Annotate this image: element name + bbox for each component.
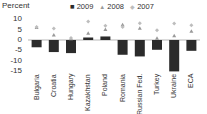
bar-2009 [49,40,59,52]
marker-2007 [155,28,159,32]
bar-2009 [169,40,179,71]
marker-2007 [86,19,90,23]
bar-2009 [100,36,110,40]
bar-2009 [32,40,42,47]
bar-2009 [118,40,128,55]
marker-2008 [138,26,142,30]
x-tick-label: Kazakhstan [84,74,91,111]
bar-2009 [186,40,196,51]
marker-2007 [103,24,107,28]
marker-2007 [138,21,142,25]
x-tick-label: Russian Fed. [136,74,143,114]
x-tick-label: Croatia [50,74,57,97]
x-tick-label: Poland [101,74,108,96]
bar-2009 [83,38,93,40]
marker-2008 [172,34,176,38]
marker-2008 [103,28,107,32]
marker-2008 [155,36,159,40]
marker-2007 [189,23,193,27]
marker-2007 [52,27,56,31]
marker-2008 [189,29,193,33]
marker-2007 [172,22,176,26]
bar-2009 [152,40,162,50]
x-tick-label: Ukraine [170,74,177,98]
bar-2009 [66,40,76,53]
x-tick-label: Turkey [153,74,160,95]
x-tick-label: ECA [187,74,194,88]
x-tick-label: Hungary [67,74,74,100]
x-tick-label: Romania [119,74,126,102]
bar-2009 [135,40,145,56]
x-tick-label: Bulgaria [33,74,40,100]
marker-2008 [52,33,56,37]
marker-2008 [86,31,90,35]
